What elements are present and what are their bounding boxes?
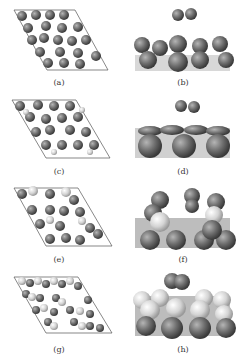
atoms bbox=[17, 10, 101, 69]
molecule-atom bbox=[172, 9, 184, 21]
panel-a-top-view bbox=[14, 10, 108, 70]
panel-e-top-view bbox=[14, 186, 112, 246]
panel-f-side-view bbox=[135, 188, 236, 250]
panel-h-side-view bbox=[133, 273, 236, 339]
caption-e: (e) bbox=[39, 255, 79, 264]
panel-g-top-view bbox=[14, 277, 112, 333]
caption-d: (d) bbox=[163, 167, 203, 176]
caption-h: (h) bbox=[163, 345, 203, 354]
molecule-atom bbox=[174, 274, 190, 290]
panel-d-side-view bbox=[135, 100, 230, 158]
molecule-atom bbox=[188, 101, 200, 113]
molecule-atom bbox=[175, 100, 187, 112]
panel-b-side-view bbox=[134, 8, 234, 72]
figure-canvas bbox=[0, 0, 242, 362]
caption-f: (f) bbox=[163, 255, 203, 264]
caption-c: (c) bbox=[39, 167, 79, 176]
molecule-atom bbox=[185, 8, 197, 20]
caption-g: (g) bbox=[39, 345, 79, 354]
panel-c-top-view bbox=[12, 100, 110, 158]
caption-b: (b) bbox=[163, 78, 203, 87]
caption-a: (a) bbox=[39, 78, 79, 87]
